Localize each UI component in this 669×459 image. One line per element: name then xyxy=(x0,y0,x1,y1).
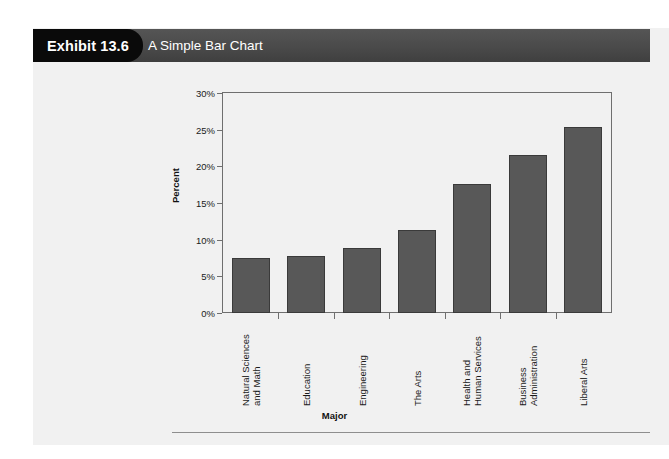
y-tick-mark xyxy=(217,276,222,277)
x-axis-title: Major xyxy=(0,410,669,421)
bar xyxy=(398,230,436,313)
x-tick-mark xyxy=(334,313,335,319)
x-category-label-text: Health andHuman Services xyxy=(461,336,483,406)
y-tick-label: 20% xyxy=(181,161,215,172)
x-category-label-text: The Arts xyxy=(412,371,423,406)
bar xyxy=(564,127,602,313)
y-tick-mark xyxy=(217,93,222,94)
y-tick-mark xyxy=(217,166,222,167)
x-category-label-text: BusinessAdministration xyxy=(517,346,539,406)
x-tick-mark xyxy=(389,313,390,319)
y-tick-label: 15% xyxy=(181,198,215,209)
y-tick-mark xyxy=(217,130,222,131)
y-axis-title: Percent xyxy=(170,168,181,203)
bars-layer xyxy=(223,93,611,313)
y-axis-tick-labels: 0%5%10%15%20%25%30% xyxy=(181,0,215,459)
bottom-divider-rule xyxy=(172,432,650,433)
y-tick-mark xyxy=(217,313,222,314)
bar xyxy=(343,248,381,313)
x-tick-mark xyxy=(500,313,501,319)
bar xyxy=(232,258,270,313)
y-tick-mark xyxy=(217,203,222,204)
x-category-label-text: Liberal Arts xyxy=(578,358,589,406)
y-tick-label: 25% xyxy=(181,124,215,135)
bar-chart-figure: Percent 0%5%10%15%20%25%30% Natural Scie… xyxy=(0,0,669,459)
x-tick-mark xyxy=(445,313,446,319)
bar xyxy=(287,256,325,313)
exhibit-page: Exhibit 13.6 A Simple Bar Chart Percent … xyxy=(0,0,669,459)
bar xyxy=(509,155,547,313)
bar xyxy=(453,184,491,313)
x-tick-mark xyxy=(278,313,279,319)
y-tick-label: 30% xyxy=(181,88,215,99)
y-tick-label: 10% xyxy=(181,234,215,245)
x-tick-mark xyxy=(556,313,557,319)
y-tick-label: 0% xyxy=(181,308,215,319)
x-category-label-text: Education xyxy=(301,364,312,406)
x-category-label-text: Engineering xyxy=(357,355,368,406)
y-tick-label: 5% xyxy=(181,271,215,282)
x-category-label-text: Natural Sciencesand Math xyxy=(240,334,262,406)
y-tick-mark xyxy=(217,240,222,241)
